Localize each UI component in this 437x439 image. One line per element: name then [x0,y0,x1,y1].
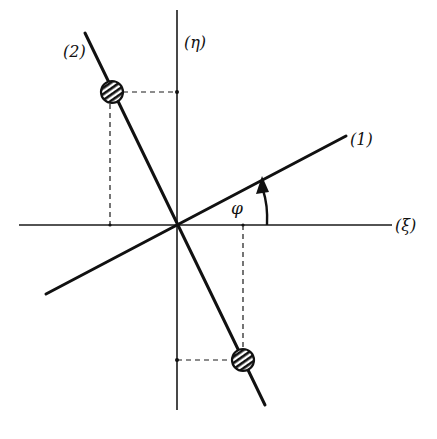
tick-eta-bottom [175,358,179,362]
tick-xi-left [108,223,111,226]
label-xi-axis: (ξ) [395,216,416,235]
tick-eta-top [175,90,179,94]
label-line-2: (2) [63,42,86,61]
label-line-1: (1) [350,130,373,149]
principal-line-1 [46,136,346,294]
mass-point-top [101,81,123,103]
mass-point-bottom [232,349,254,371]
tick-xi-right [241,223,244,226]
label-eta-axis: (η) [184,33,206,52]
diagram-canvas: (η) (ξ) (1) (2) φ [0,0,437,439]
label-angle-phi: φ [231,198,243,218]
